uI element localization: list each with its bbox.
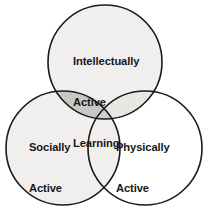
label-social-line-2: Active: [29, 182, 75, 196]
label-physically-active-learning: Physically Active Learning: [116, 113, 170, 212]
label-physical-line-1: Physically: [116, 141, 170, 155]
label-intellectual-line-1: Intellectually: [73, 55, 139, 69]
venn-diagram-figure: Intellectually Active Learning Socially …: [0, 0, 206, 212]
label-social-line-1: Socially: [29, 141, 75, 155]
label-physical-line-2: Active: [116, 182, 170, 196]
label-intellectual-line-2: Active: [73, 96, 139, 110]
label-socially-active-learning: Socially Active Learning: [29, 113, 75, 212]
